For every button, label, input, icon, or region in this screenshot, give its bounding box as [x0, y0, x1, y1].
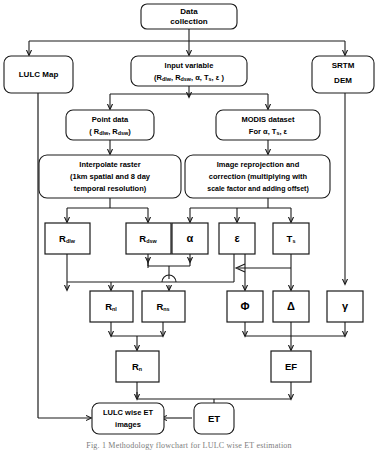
data-collection-label-1: Data	[180, 7, 198, 16]
interpolate-raster-label-3: temporal resolution)	[74, 184, 147, 193]
et-label: ET	[208, 413, 220, 424]
node-modis-dataset[interactable]: MODIS dataset For α, Ts, ε	[216, 110, 320, 140]
node-alpha[interactable]: α	[172, 223, 208, 254]
modis-dataset-label-2: For α, Ts, ε	[249, 127, 288, 136]
node-delta[interactable]: Δ	[273, 291, 309, 322]
epsilon-label: ε	[234, 232, 240, 244]
figure-caption-text: Fig. 1 Methodology flowchart for LULC wi…	[0, 439, 378, 453]
interpolate-raster-label-1: Interpolate raster	[79, 160, 140, 169]
image-reprojection-label-3: scale factor and adding offset)	[207, 185, 309, 193]
node-srtm-dem[interactable]: SRTM DEM	[312, 56, 374, 93]
lulc-wise-et-images-label-2: images	[115, 420, 141, 429]
node-phi[interactable]: Φ	[227, 291, 263, 322]
node-r-dlw[interactable]: Rdlw	[45, 223, 90, 254]
input-variable-label-1: Input variable	[165, 61, 214, 70]
image-reprojection-label-1: Image reprojection and	[217, 160, 300, 169]
delta-label: Δ	[287, 300, 295, 312]
node-ef[interactable]: EF	[271, 351, 311, 382]
node-r-dsw[interactable]: Rdsw	[126, 223, 171, 254]
node-point-data[interactable]: Point data ( Rdlw, Rdsw)	[66, 110, 154, 140]
node-gamma[interactable]: γ	[327, 291, 363, 322]
srtm-dem-label-2: DEM	[334, 76, 352, 85]
data-collection-label-2: collection	[170, 17, 207, 26]
node-et[interactable]: ET	[194, 403, 234, 434]
lulc-wise-et-images-label-1: LULC wise ET	[103, 408, 153, 417]
node-lulc-wise-et-images[interactable]: LULC wise ET images	[92, 403, 164, 434]
gamma-label: γ	[342, 300, 349, 312]
figure-caption: Fig. 1 Methodology flowchart for LULC wi…	[0, 439, 378, 453]
node-image-reprojection[interactable]: Image reprojection and correction (multi…	[185, 155, 330, 198]
lulc-map-label: LULC Map	[19, 70, 59, 79]
node-epsilon[interactable]: ε	[219, 223, 255, 254]
alpha-label: α	[187, 232, 194, 244]
et-methodology-flowchart: Data collection LULC Map Input variable …	[0, 0, 378, 453]
modis-dataset-label-1: MODIS dataset	[242, 115, 295, 124]
image-reprojection-label-2: correction (multiplying with	[209, 172, 308, 181]
point-data-label-1: Point data	[92, 115, 129, 124]
ef-label: EF	[285, 361, 297, 372]
flowchart-canvas: Data collection LULC Map Input variable …	[0, 0, 378, 453]
node-input-variable[interactable]: Input variable (Rdlw, Rdsw, α, Ts, ε )	[131, 56, 247, 86]
node-interpolate-raster[interactable]: Interpolate raster (1km spatial and 8 da…	[39, 155, 181, 198]
srtm-dem-label-1: SRTM	[332, 61, 355, 70]
node-lulc-map[interactable]: LULC Map	[4, 56, 73, 93]
node-t-s[interactable]: Ts	[273, 223, 309, 254]
node-r-nl[interactable]: Rnl	[90, 291, 133, 322]
interpolate-raster-label-2: (1km spatial and 8 day	[70, 172, 151, 181]
node-r-ns[interactable]: Rns	[142, 291, 185, 322]
node-r-n[interactable]: Rn	[116, 351, 159, 382]
phi-label: Φ	[240, 300, 249, 312]
node-data-collection[interactable]: Data collection	[141, 4, 237, 29]
